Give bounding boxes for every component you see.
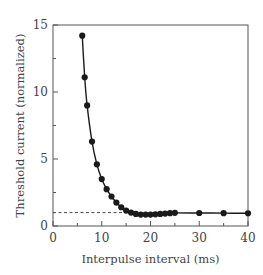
data-point	[172, 210, 178, 216]
data-point	[108, 193, 114, 199]
y-tick-label: 10	[33, 85, 48, 99]
data-point	[84, 102, 90, 108]
axis-ticks	[53, 25, 248, 226]
data-point	[196, 210, 202, 216]
data-markers	[79, 33, 251, 218]
y-tick-label: 0	[40, 219, 48, 233]
data-point	[104, 186, 110, 192]
data-point	[89, 138, 95, 144]
data-point	[99, 176, 105, 182]
y-tick-label: 15	[33, 18, 48, 32]
plot-frame	[53, 25, 248, 226]
data-point	[113, 199, 119, 205]
data-point	[79, 33, 85, 39]
data-point	[82, 74, 88, 80]
y-axis-label: Threshold current (normalized)	[13, 34, 27, 218]
x-tick-label: 0	[49, 231, 57, 245]
data-point	[94, 161, 100, 167]
x-axis-label: Interpulse interval (ms)	[81, 252, 219, 266]
x-tick-label: 10	[94, 231, 109, 245]
data-point	[221, 210, 227, 216]
threshold-chart: 010203040051015 Interpulse interval (ms)…	[0, 0, 263, 275]
x-tick-label: 20	[143, 231, 158, 245]
x-tick-label: 30	[192, 231, 207, 245]
data-point	[245, 210, 251, 216]
x-tick-label: 40	[240, 231, 255, 245]
y-tick-label: 5	[40, 152, 48, 166]
